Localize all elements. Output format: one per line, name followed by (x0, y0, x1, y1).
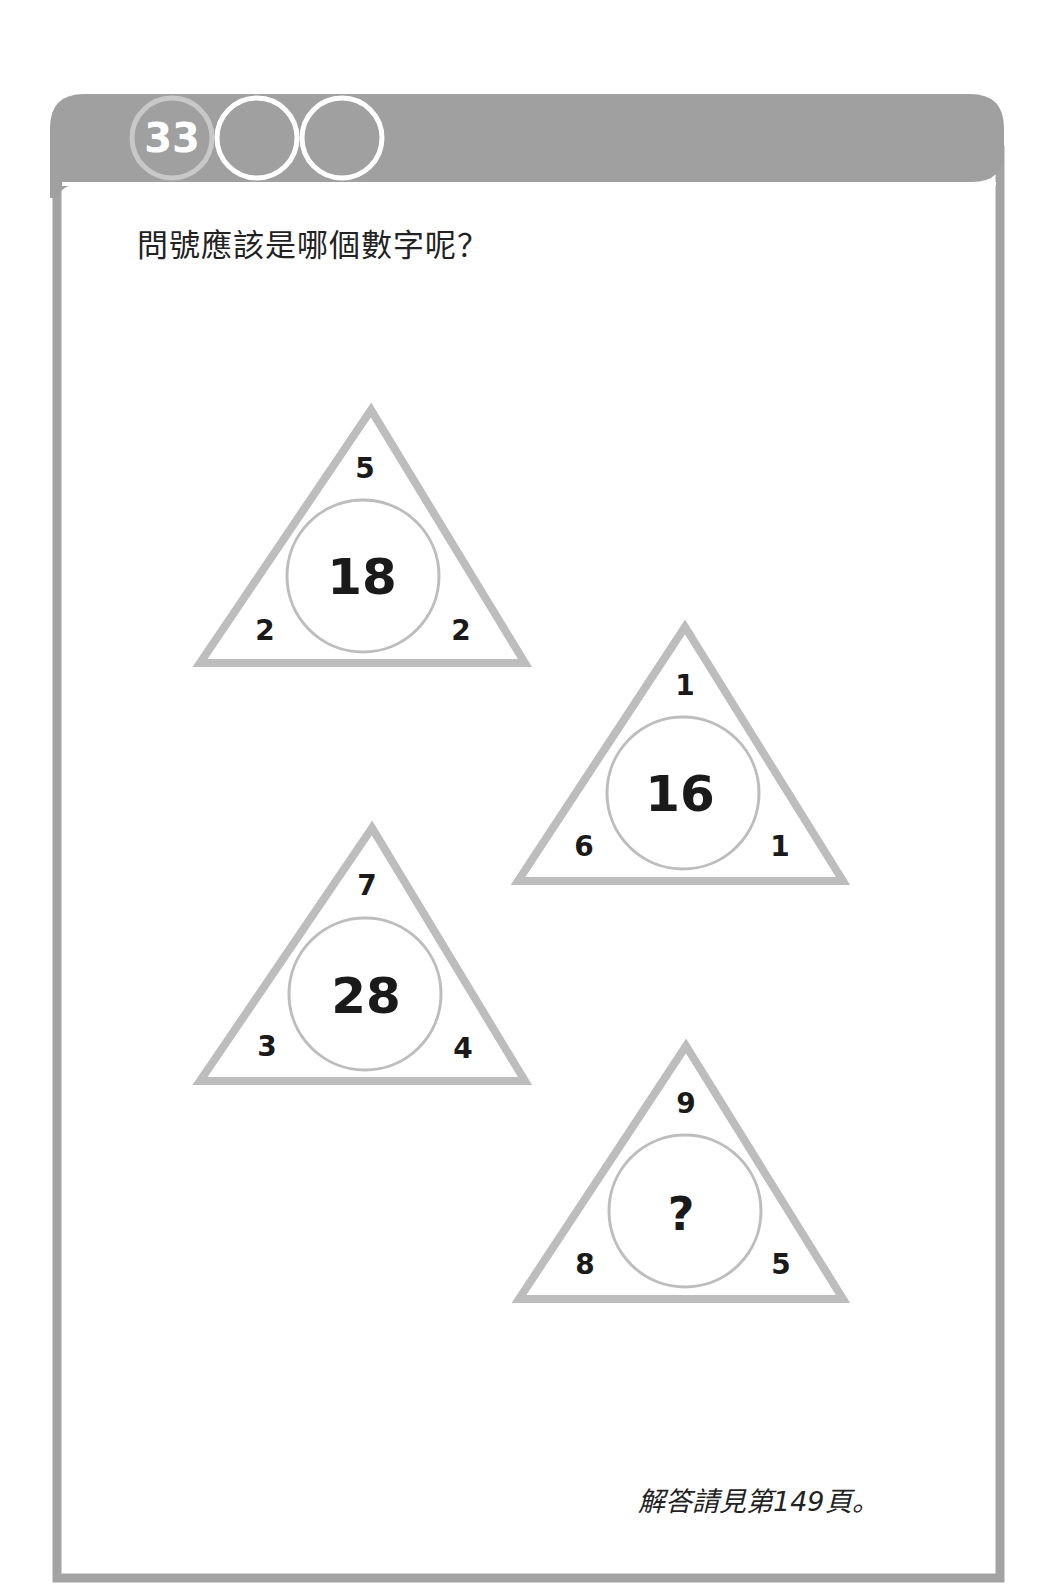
top-number: 5 (355, 452, 374, 485)
triangle-puzzle-3: 7 3 4 28 (200, 828, 525, 1081)
triangle-puzzle-1: 5 2 2 18 (200, 410, 525, 663)
center-number: 18 (327, 548, 397, 606)
left-number: 2 (255, 614, 274, 647)
right-number: 5 (771, 1248, 790, 1281)
triangle-puzzle-2: 1 6 1 16 (518, 627, 843, 881)
center-number: ? (668, 1187, 695, 1241)
right-number: 2 (451, 614, 470, 647)
question-text: 問號應該是哪個數字呢？ (137, 220, 489, 265)
center-number: 28 (331, 967, 401, 1025)
right-number: 1 (770, 830, 789, 863)
top-number: 1 (675, 669, 694, 702)
top-number: 7 (357, 869, 376, 902)
left-number: 6 (574, 830, 593, 863)
top-number: 9 (676, 1087, 695, 1120)
center-number: 16 (645, 765, 715, 823)
puzzle-number: 33 (144, 115, 200, 161)
frame-inner-cover (62, 182, 996, 186)
right-number: 4 (453, 1032, 472, 1065)
left-number: 3 (257, 1030, 276, 1063)
triangle-puzzle-4: 9 8 5 ? (519, 1046, 843, 1299)
answer-page-note: 解答請見第149頁。 (638, 1480, 879, 1519)
left-number: 8 (575, 1248, 594, 1281)
